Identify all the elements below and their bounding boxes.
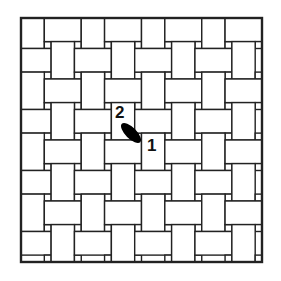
marker-label-2: 2 xyxy=(115,104,124,121)
small-square-tile xyxy=(195,133,202,140)
horizontal-tile xyxy=(165,201,202,225)
small-square-tile xyxy=(195,164,202,171)
vertical-tile xyxy=(21,133,44,170)
vertical-tile xyxy=(21,194,44,231)
vertical-tile xyxy=(202,18,225,49)
small-square-tile xyxy=(225,72,232,79)
horizontal-tile xyxy=(44,140,81,164)
horizontal-tile xyxy=(225,140,262,164)
horizontal-tile xyxy=(225,201,262,225)
small-square-tile xyxy=(225,103,232,110)
vertical-tile xyxy=(51,42,74,79)
vertical-tile xyxy=(172,42,195,79)
small-square-tile xyxy=(195,225,202,232)
vertical-tile xyxy=(21,18,44,49)
small-square-tile xyxy=(135,103,142,110)
vertical-tile xyxy=(202,133,225,170)
vertical-tile xyxy=(51,164,74,201)
small-square-tile xyxy=(74,164,81,171)
vertical-tile xyxy=(51,103,74,140)
small-square-tile xyxy=(135,225,142,232)
horizontal-tile xyxy=(44,18,81,42)
horizontal-tile xyxy=(165,140,202,164)
small-square-tile xyxy=(225,133,232,140)
small-square-tile xyxy=(135,194,142,201)
small-square-tile xyxy=(165,133,172,140)
small-square-tile xyxy=(74,133,81,140)
small-square-tile xyxy=(135,42,142,49)
tile-grid xyxy=(21,18,262,262)
vertical-tile xyxy=(172,225,195,262)
vertical-tile xyxy=(142,194,165,231)
small-square-tile xyxy=(44,42,51,49)
vertical-tile xyxy=(232,42,255,79)
horizontal-tile xyxy=(105,18,142,42)
horizontal-tile xyxy=(195,232,232,256)
small-square-tile xyxy=(105,194,112,201)
small-square-tile xyxy=(44,72,51,79)
horizontal-tile xyxy=(105,140,142,164)
horizontal-tile xyxy=(225,79,262,103)
vertical-tile xyxy=(202,72,225,109)
vertical-tile xyxy=(111,42,134,79)
small-square-tile xyxy=(225,42,232,49)
horizontal-tile xyxy=(21,110,51,134)
small-square-tile xyxy=(225,164,232,171)
horizontal-tile xyxy=(135,110,172,134)
vertical-tile xyxy=(111,225,134,262)
small-square-tile xyxy=(165,225,172,232)
vertical-tile xyxy=(202,194,225,231)
small-square-tile xyxy=(195,42,202,49)
small-square-tile xyxy=(105,103,112,110)
vertical-tile xyxy=(172,164,195,201)
small-square-tile xyxy=(44,164,51,171)
small-square-tile xyxy=(165,72,172,79)
horizontal-tile xyxy=(21,49,51,73)
horizontal-tile xyxy=(165,79,202,103)
small-square-tile xyxy=(44,225,51,232)
small-square-tile xyxy=(105,164,112,171)
small-square-tile xyxy=(105,72,112,79)
vertical-tile xyxy=(81,18,104,49)
horizontal-tile xyxy=(74,110,111,134)
small-square-tile xyxy=(44,194,51,201)
small-square-tile xyxy=(74,72,81,79)
small-square-tile xyxy=(74,103,81,110)
vertical-tile xyxy=(172,103,195,140)
small-square-tile xyxy=(74,42,81,49)
small-square-tile xyxy=(195,103,202,110)
vertical-tile xyxy=(21,72,44,109)
small-square-tile xyxy=(165,42,172,49)
horizontal-tile xyxy=(21,232,51,256)
small-square-tile xyxy=(105,133,112,140)
small-square-tile xyxy=(165,194,172,201)
horizontal-tile xyxy=(74,49,111,73)
small-square-tile xyxy=(225,225,232,232)
small-square-tile xyxy=(165,103,172,110)
horizontal-tile xyxy=(135,171,172,195)
small-square-tile xyxy=(195,194,202,201)
small-square-tile xyxy=(74,194,81,201)
horizontal-tile xyxy=(74,232,111,256)
small-square-tile xyxy=(135,164,142,171)
small-square-tile xyxy=(44,133,51,140)
small-square-tile xyxy=(105,225,112,232)
horizontal-tile xyxy=(225,18,262,42)
marker-label-1: 1 xyxy=(147,137,156,154)
vertical-tile xyxy=(232,164,255,201)
horizontal-tile xyxy=(135,232,172,256)
vertical-tile xyxy=(51,225,74,262)
small-square-tile xyxy=(44,103,51,110)
tile-pattern-canvas xyxy=(0,0,281,281)
vertical-tile xyxy=(81,194,104,231)
horizontal-tile xyxy=(195,49,232,73)
small-square-tile xyxy=(74,225,81,232)
horizontal-tile xyxy=(165,18,202,42)
horizontal-tile xyxy=(21,171,51,195)
small-square-tile xyxy=(165,164,172,171)
vertical-tile xyxy=(142,18,165,49)
vertical-tile xyxy=(81,133,104,170)
horizontal-tile xyxy=(44,79,81,103)
small-square-tile xyxy=(135,72,142,79)
horizontal-tile xyxy=(195,110,232,134)
